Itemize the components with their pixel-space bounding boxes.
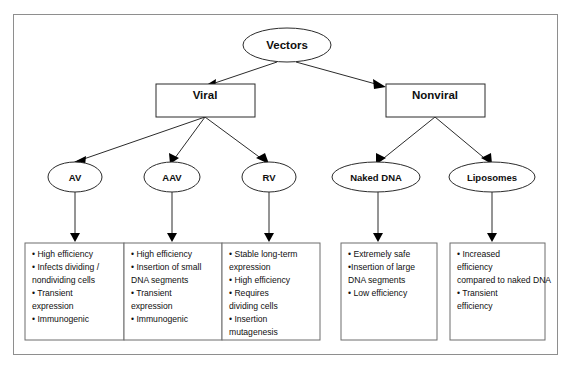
property-box-naked-dna[interactable]: • Extremely safe •Insertion of large DNA…: [341, 243, 437, 340]
node-aav[interactable]: AAV: [144, 162, 200, 192]
node-vectors[interactable]: Vectors: [243, 28, 331, 62]
edge-viral-to-aav: [169, 117, 205, 164]
edge-viral-to-av: [72, 117, 205, 166]
node-viral[interactable]: Viral: [156, 84, 255, 117]
edge-vectors-to-nonviral: [296, 62, 386, 89]
node-av-label: AV: [69, 172, 82, 183]
diagram-canvas: Vectors Viral Nonviral AV AAV RV Naked D…: [0, 0, 571, 369]
node-av[interactable]: AV: [48, 162, 102, 192]
property-box-rv[interactable]: • Stable long-term expression • High eff…: [222, 243, 320, 340]
node-rv-label: RV: [262, 172, 276, 183]
node-aav-label: AAV: [162, 172, 182, 183]
node-liposomes[interactable]: Liposomes: [449, 162, 535, 192]
property-box-liposomes[interactable]: • Increased efficiency compared to naked…: [450, 243, 553, 340]
node-naked-dna-label: Naked DNA: [350, 172, 402, 183]
edge-rv-to-box: [264, 192, 274, 242]
arrow-head-icon: [373, 233, 383, 242]
property-box-av[interactable]: • High efficiency • Infects dividing / n…: [25, 243, 124, 340]
diagram-root: Vectors Viral Nonviral AV AAV RV Naked D…: [0, 0, 571, 369]
node-liposomes-label: Liposomes: [467, 172, 517, 183]
arrow-head-icon: [167, 233, 177, 242]
node-vectors-label: Vectors: [266, 39, 308, 51]
property-box-aav[interactable]: • High efficiency • Insertion of small D…: [124, 243, 222, 340]
arrow-head-icon: [487, 233, 497, 242]
node-rv[interactable]: RV: [242, 162, 296, 192]
edge-aav-to-box: [167, 192, 177, 242]
node-nonviral-label: Nonviral: [412, 89, 458, 101]
arrow-head-icon: [373, 79, 386, 89]
arrow-head-icon: [264, 233, 274, 242]
arrow-head-icon: [70, 233, 80, 242]
edge-nonviral-to-naked-dna: [376, 117, 435, 164]
edge-nonviral-to-liposomes: [435, 117, 492, 164]
edge-viral-to-rv: [205, 117, 269, 164]
node-viral-label: Viral: [193, 89, 218, 101]
node-nonviral[interactable]: Nonviral: [386, 84, 485, 117]
edge-liposomes-to-box: [487, 192, 497, 242]
edge-av-to-box: [70, 192, 80, 242]
edge-naked-dna-to-box: [373, 192, 383, 242]
node-naked-dna[interactable]: Naked DNA: [332, 162, 420, 192]
